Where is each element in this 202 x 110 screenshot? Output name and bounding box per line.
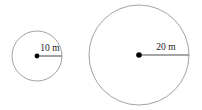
geometry-figure: 10 m 20 m [0,0,202,110]
small-circle-radius-label: 10 m [40,43,60,53]
small-circle-center-dot [35,54,40,59]
large-circle-center-dot [136,52,142,58]
large-circle-radius-label: 20 m [156,42,176,52]
figure-canvas: 10 m 20 m [0,0,202,110]
